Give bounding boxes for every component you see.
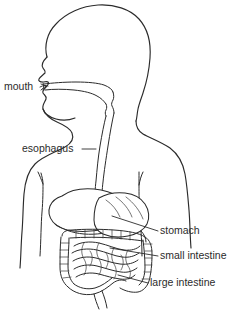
digestive-system-diagram: mouth esophagus stomach small intestine … xyxy=(0,0,236,310)
label-large-intestine: large intestine xyxy=(150,276,216,288)
head-outline-group xyxy=(39,5,150,121)
esophagus-left-wall xyxy=(95,116,106,198)
label-small-intestine: small intestine xyxy=(160,249,227,261)
colon-transverse-inner xyxy=(70,237,143,241)
label-mouth: mouth xyxy=(4,80,33,92)
label-esophagus: esophagus xyxy=(22,142,73,154)
small-intestine-texture-1 xyxy=(90,251,92,266)
anatomy-illustration: mouth esophagus stomach small intestine … xyxy=(0,0,236,310)
small-intestine-coil-3 xyxy=(73,257,138,264)
neck-front-and-left-arm xyxy=(20,109,73,268)
neck-and-torso-outline-group xyxy=(20,109,191,268)
small-intestine-group xyxy=(72,242,140,279)
small-intestine-coil-4 xyxy=(74,265,137,272)
left-armpit-crease xyxy=(40,173,43,256)
tongue-line xyxy=(45,89,106,104)
small-intestine-loop-a xyxy=(82,243,87,275)
mouth-cavity-group xyxy=(43,82,114,116)
label-stomach: stomach xyxy=(160,224,200,236)
esophagus-group xyxy=(95,113,114,199)
leader-lines-group xyxy=(40,84,158,283)
skull-outline xyxy=(46,5,150,121)
colon-haustra-left xyxy=(60,243,71,278)
sigmoid-colon-inner xyxy=(74,278,112,289)
rectum-descent xyxy=(94,294,99,309)
labels-group: mouth esophagus stomach small intestine … xyxy=(4,80,227,288)
right-armpit-notch xyxy=(139,172,143,185)
pharynx-back-wall xyxy=(112,92,114,113)
rectum-descent-inner xyxy=(102,291,107,308)
colon-outer-frame-left xyxy=(60,237,68,287)
pharynx-front-wall xyxy=(105,104,107,116)
